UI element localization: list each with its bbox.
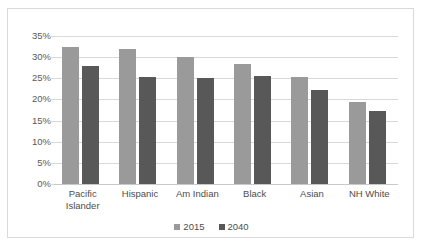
bar-2015-nh-white[interactable] <box>349 102 366 184</box>
legend-label: 2040 <box>228 222 249 232</box>
x-axis-label-line: Black <box>226 188 283 200</box>
bar-2040-am-indian[interactable] <box>197 78 214 184</box>
chart-legend: 20152040 <box>8 222 415 232</box>
legend-label: 2015 <box>183 222 204 232</box>
bar-2015-black[interactable] <box>234 64 251 185</box>
bar-2040-asian[interactable] <box>311 90 328 184</box>
x-axis-label: Black <box>226 188 283 200</box>
bar-2040-pacific-islander[interactable] <box>82 66 99 184</box>
y-axis-tick-label: 35% <box>17 31 51 41</box>
bar-2015-hispanic[interactable] <box>119 49 136 184</box>
x-axis-label-line: Pacific <box>54 188 111 200</box>
y-axis-tick-label: 15% <box>17 116 51 126</box>
legend-item-2015[interactable]: 2015 <box>174 222 204 232</box>
y-axis-tick-label: 5% <box>17 158 51 168</box>
x-axis-label: PacificIslander <box>54 188 111 212</box>
y-axis-tick-label: 20% <box>17 95 51 105</box>
plot-area: 0%5%10%15%20%25%30%35% PacificIslanderHi… <box>8 9 415 239</box>
x-axis-label: Am Indian <box>169 188 226 200</box>
legend-swatch-icon <box>219 224 225 230</box>
x-axis-label-line: Hispanic <box>111 188 168 200</box>
bar-2040-nh-white[interactable] <box>369 111 386 184</box>
x-axis-label-line: Islander <box>54 200 111 212</box>
legend-item-2040[interactable]: 2040 <box>219 222 249 232</box>
x-axis-label: Hispanic <box>111 188 168 200</box>
bar-2040-black[interactable] <box>254 76 271 184</box>
x-axis-label-line: Am Indian <box>169 188 226 200</box>
y-axis: 0%5%10%15%20%25%30%35% <box>13 9 51 239</box>
chart-container: 0%5%10%15%20%25%30%35% PacificIslanderHi… <box>7 8 414 238</box>
x-axis-label: NH White <box>341 188 398 200</box>
bar-2015-am-indian[interactable] <box>177 57 194 184</box>
y-axis-tick-label: 30% <box>17 52 51 62</box>
bar-2015-asian[interactable] <box>291 77 308 184</box>
x-axis-label-line: Asian <box>283 188 340 200</box>
legend-swatch-icon <box>174 224 180 230</box>
bar-2040-hispanic[interactable] <box>139 77 156 184</box>
y-axis-tick-label: 0% <box>17 179 51 189</box>
x-axis-label-line: NH White <box>341 188 398 200</box>
y-axis-tick-label: 25% <box>17 74 51 84</box>
y-axis-tick-label: 10% <box>17 137 51 147</box>
x-axis-label: Asian <box>283 188 340 200</box>
bar-2015-pacific-islander[interactable] <box>62 47 79 184</box>
